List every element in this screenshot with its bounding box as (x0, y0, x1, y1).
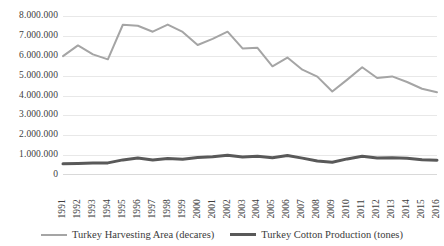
legend-label-cotton-production: Turkey Cotton Production (tones) (261, 229, 403, 240)
x-axis-tick-label: 2004 (252, 199, 262, 218)
x-axis-tick-label: 2012 (372, 199, 382, 218)
y-axis-tick-label: 1.000.000 (19, 150, 58, 160)
x-axis-tick-label: 1996 (132, 199, 142, 218)
y-axis-tick-label: 7.000.000 (19, 31, 58, 41)
x-axis-tick-label: 2011 (357, 199, 367, 218)
y-axis-tick-label: 4.000.000 (19, 91, 58, 101)
series-line (63, 155, 437, 164)
legend-line-icon-harvesting-area (41, 234, 67, 236)
x-axis-tick-label: 2014 (402, 199, 412, 218)
x-axis-tick-label: 1997 (147, 199, 157, 218)
x-axis-tick-label: 1992 (72, 199, 82, 218)
x-axis-tick-label: 2005 (267, 199, 277, 218)
y-axis-tick-label: 8.000.000 (19, 11, 58, 21)
x-axis-tick-label: 2003 (237, 199, 247, 218)
legend-label-harvesting-area: Turkey Harvesting Area (decares) (72, 229, 214, 240)
y-axis-tick-label: 0 (53, 170, 58, 180)
y-axis-tick-label: 5.000.000 (19, 71, 58, 81)
x-axis-tick-label: 2007 (297, 199, 307, 218)
x-axis-tick-label: 1999 (177, 199, 187, 218)
x-axis-tick-label: 2009 (327, 199, 337, 218)
series-line (63, 25, 437, 93)
x-axis-tick-label: 1991 (58, 199, 68, 218)
x-axis-tick-label: 2015 (417, 199, 427, 218)
x-axis-tick-label: 2006 (282, 199, 292, 218)
x-axis: 1991199219931994199519961997199819992000… (63, 178, 437, 218)
x-axis-tick-label: 2013 (387, 199, 397, 218)
x-axis-tick-label: 1993 (87, 199, 97, 218)
x-axis-tick-label: 2000 (192, 199, 202, 218)
legend: Turkey Harvesting Area (decares) Turkey … (0, 229, 444, 240)
y-axis-tick-label: 2.000.000 (19, 130, 58, 140)
y-axis-tick-label: 6.000.000 (19, 51, 58, 61)
x-axis-tick-label: 1995 (117, 199, 127, 218)
legend-line-icon-cotton-production (230, 233, 256, 236)
x-axis-tick-label: 2008 (312, 199, 322, 218)
x-axis-tick-label: 2002 (222, 199, 232, 218)
x-axis-tick-label: 1998 (162, 199, 172, 218)
y-axis-tick-label: 3.000.000 (19, 110, 58, 120)
y-axis: 8.000.0007.000.0006.000.0005.000.0004.00… (0, 0, 58, 191)
x-axis-tick-label: 1994 (102, 199, 112, 218)
series-layer (63, 16, 437, 175)
plot-area (63, 16, 437, 175)
legend-item-harvesting-area[interactable]: Turkey Harvesting Area (decares) (41, 229, 214, 240)
x-axis-tick-label: 2016 (432, 199, 442, 218)
cotton-chart: 8.000.0007.000.0006.000.0005.000.0004.00… (0, 0, 444, 246)
x-axis-tick-label: 2001 (207, 199, 217, 218)
legend-item-cotton-production[interactable]: Turkey Cotton Production (tones) (230, 229, 403, 240)
x-axis-tick-label: 2010 (342, 199, 352, 218)
